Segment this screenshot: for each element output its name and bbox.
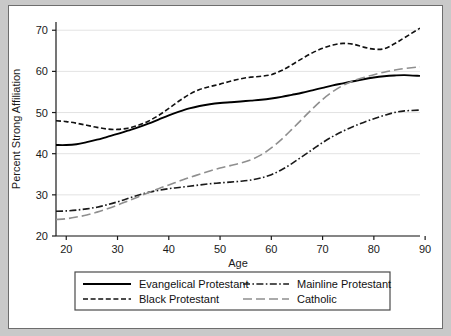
chart-canvas: 2030405060702030405060708090AgePercent S… xyxy=(0,0,451,336)
y-tick-label-70: 70 xyxy=(36,24,48,36)
y-tick-label-20: 20 xyxy=(36,230,48,242)
legend-label-catholic: Catholic xyxy=(297,293,337,305)
x-tick-label-50: 50 xyxy=(214,243,226,255)
x-tick-label-20: 20 xyxy=(60,243,72,255)
x-tick-label-80: 80 xyxy=(368,243,380,255)
y-tick-label-50: 50 xyxy=(36,107,48,119)
x-axis-title: Age xyxy=(228,257,248,269)
x-tick-label-60: 60 xyxy=(265,243,277,255)
x-tick-label-40: 40 xyxy=(163,243,175,255)
y-tick-label-40: 40 xyxy=(36,148,48,160)
x-tick-label-70: 70 xyxy=(316,243,328,255)
legend-label-black-protestant: Black Protestant xyxy=(139,293,219,305)
legend-label-mainline-protestant: Mainline Protestant xyxy=(297,278,391,290)
y-tick-label-60: 60 xyxy=(36,65,48,77)
x-tick-label-30: 30 xyxy=(111,243,123,255)
chart-root: 2030405060702030405060708090AgePercent S… xyxy=(0,0,451,336)
legend-label-evangelical-protestant: Evangelical Protestant xyxy=(139,278,248,290)
x-tick-label-90: 90 xyxy=(419,243,431,255)
y-axis-title: Percent Strong Affiliation xyxy=(10,69,22,189)
y-tick-label-30: 30 xyxy=(36,189,48,201)
